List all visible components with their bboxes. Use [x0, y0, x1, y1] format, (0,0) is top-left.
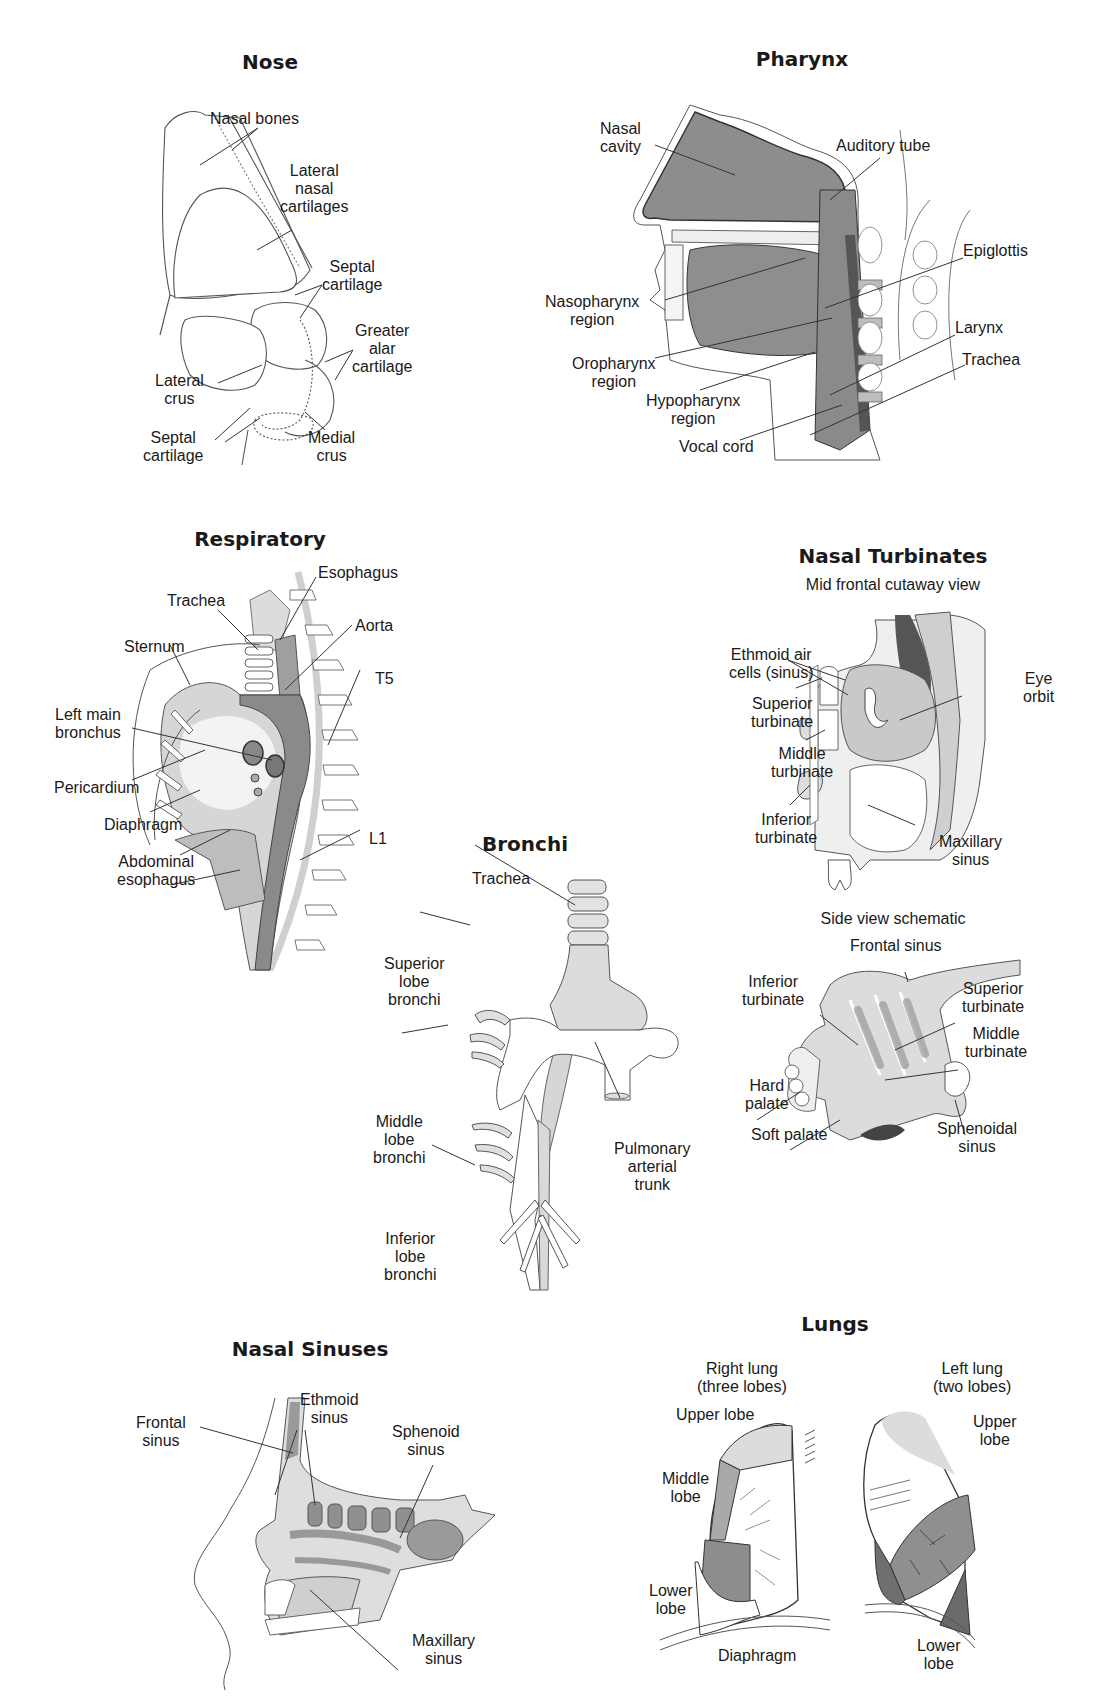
label-left-lower-lobe: Lower lobe: [917, 1637, 961, 1673]
label-right-lower-lobe: Lower lobe: [649, 1582, 693, 1618]
label-hypopharynx-region: Hypopharynx region: [646, 392, 740, 428]
label-diaphragm-lungs: Diaphragm: [718, 1647, 796, 1665]
label-oropharynx-region: Oropharynx region: [572, 355, 656, 391]
label-sphenoid-sinus: Sphenoid sinus: [392, 1423, 460, 1459]
label-larynx: Larynx: [955, 319, 1003, 337]
label-abdominal-esophagus: Abdominal esophagus: [117, 853, 195, 889]
bronchi-panel: Bronchi: [360, 820, 720, 1310]
label-sternum: Sternum: [124, 638, 184, 656]
label-inferior-turbinate-side: Inferior turbinate: [742, 973, 804, 1009]
label-middle-lobe-bronchi: Middle lobe bronchi: [373, 1113, 425, 1167]
label-diaphragm-respiratory: Diaphragm: [104, 816, 182, 834]
label-right-lung: Right lung (three lobes): [697, 1360, 787, 1396]
label-inferior-lobe-bronchi: Inferior lobe bronchi: [384, 1230, 436, 1284]
label-sphenoidal-sinus: Sphenoidal sinus: [937, 1120, 1017, 1156]
label-epiglottis: Epiglottis: [963, 242, 1028, 260]
pharynx-panel: Pharynx: [0, 0, 1093, 500]
label-nasopharynx-region: Nasopharynx region: [545, 293, 639, 329]
label-frontal-sinus: Frontal sinus: [136, 1414, 186, 1450]
label-aorta: Aorta: [355, 617, 393, 635]
label-middle-lobe: Middle lobe: [662, 1470, 709, 1506]
pharynx-illustration: [0, 0, 1093, 500]
lungs-panel: Lungs Right lung (three lobes) Left lung…: [620, 1300, 1093, 1705]
label-soft-palate: Soft palate: [751, 1126, 828, 1144]
label-ethmoid-sinus: Ethmoid sinus: [300, 1391, 359, 1427]
label-maxillary-sinus: Maxillary sinus: [412, 1632, 475, 1668]
label-left-upper-lobe: Upper lobe: [973, 1413, 1017, 1449]
label-superior-turbinate-side: Superior turbinate: [962, 980, 1024, 1016]
label-left-lung: Left lung (two lobes): [933, 1360, 1011, 1396]
label-esophagus: Esophagus: [318, 564, 398, 582]
label-nasal-cavity: Nasal cavity: [600, 120, 641, 156]
label-pericardium: Pericardium: [54, 779, 139, 797]
label-frontal-sinus-side: Frontal sinus: [850, 937, 942, 955]
label-vocal-cord: Vocal cord: [679, 438, 754, 456]
nasal-sinuses-panel: Nasal Sinuses Frontal sinus Ethmoid sinu…: [100, 1320, 520, 1705]
label-auditory-tube: Auditory tube: [836, 137, 930, 155]
label-trachea-pharynx: Trachea: [962, 351, 1020, 369]
label-trachea-respiratory: Trachea: [167, 592, 225, 610]
label-trachea-bronchi: Trachea: [472, 870, 530, 888]
label-superior-lobe-bronchi: Superior lobe bronchi: [384, 955, 444, 1009]
label-middle-turbinate-side: Middle turbinate: [965, 1025, 1027, 1061]
label-right-upper-lobe: Upper lobe: [676, 1406, 754, 1424]
label-hard-palate: Hard palate: [745, 1077, 789, 1113]
label-pulmonary-arterial-trunk: Pulmonary arterial trunk: [614, 1140, 690, 1194]
label-t5: T5: [375, 670, 394, 688]
nasal-turbinates-panel: Nasal Turbinates Mid frontal cutaway vie…: [700, 520, 1093, 1180]
label-left-main-bronchus: Left main bronchus: [55, 706, 121, 742]
